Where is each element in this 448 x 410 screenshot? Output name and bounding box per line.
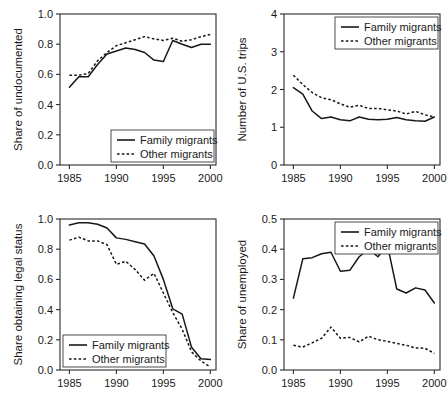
y-tick-label: 0.4	[262, 243, 277, 255]
x-tick-label: 2000	[422, 377, 446, 389]
x-tick-label: 1990	[328, 172, 352, 184]
panel-share-obtaining-legal-status: 0.00.20.40.60.81.01985199019952000Share …	[0, 205, 224, 410]
x-tick-label: 1985	[281, 377, 305, 389]
x-tick-label: 1995	[375, 172, 399, 184]
y-tick-label: 0.0	[262, 364, 277, 376]
legend: Family migrantsOther migrants	[335, 222, 442, 254]
y-tick-label: 0.2	[38, 129, 53, 141]
x-tick-label: 2000	[198, 377, 222, 389]
y-axis-title: Share of undocumented	[12, 28, 24, 151]
y-tick-label: 0.8	[38, 243, 53, 255]
y-tick-label: 0.6	[38, 273, 53, 285]
legend-label-other-migrants: Other migrants	[364, 35, 437, 47]
legend-label-family-migrants: Family migrants	[140, 134, 218, 146]
y-tick-label: 0.0	[38, 159, 53, 171]
y-tick-label: 0.2	[262, 304, 277, 316]
x-tick-label: 2000	[422, 172, 446, 184]
y-tick-label: 4	[271, 8, 277, 20]
y-tick-label: 0.4	[38, 99, 53, 111]
y-tick-label: 0.1	[262, 334, 277, 346]
x-tick-label: 1985	[281, 172, 305, 184]
y-tick-label: 3	[271, 46, 277, 58]
x-tick-label: 1995	[151, 377, 175, 389]
legend-label-other-migrants: Other migrants	[140, 148, 213, 160]
series-line-1	[69, 40, 210, 87]
legend-label-family-migrants: Family migrants	[364, 226, 442, 238]
y-tick-label: 0.0	[38, 364, 53, 376]
x-tick-label: 1990	[328, 377, 352, 389]
x-tick-label: 2000	[198, 172, 222, 184]
y-tick-label: 0.2	[38, 334, 53, 346]
figure-multi-panel-line-charts: 0.00.20.40.60.81.01985199019952000Share …	[0, 0, 448, 410]
panel-1-svg: 0.00.20.40.60.81.01985199019952000Share …	[0, 0, 224, 205]
legend: Family migrantsOther migrants	[335, 17, 442, 49]
y-tick-label: 0	[271, 159, 277, 171]
y-tick-label: 0.3	[262, 273, 277, 285]
panel-share-of-undocumented: 0.00.20.40.60.81.01985199019952000Share …	[0, 0, 224, 205]
series-line-2	[69, 34, 210, 75]
y-tick-label: 1.0	[38, 213, 53, 225]
x-tick-label: 1985	[57, 377, 81, 389]
y-tick-label: 0.8	[38, 38, 53, 50]
legend-label-other-migrants: Other migrants	[92, 353, 165, 365]
y-tick-label: 0.6	[38, 68, 53, 80]
panel-3-svg: 0.00.20.40.60.81.01985199019952000Share …	[0, 205, 224, 410]
series-line-1	[293, 88, 434, 122]
y-axis-title: Number of U.S. trips	[236, 37, 248, 141]
y-tick-label: 1.0	[38, 8, 53, 20]
legend-label-family-migrants: Family migrants	[92, 339, 170, 351]
x-tick-label: 1995	[375, 377, 399, 389]
x-tick-label: 1990	[104, 172, 128, 184]
legend-label-family-migrants: Family migrants	[364, 21, 442, 33]
panel-4-svg: 0.00.10.20.30.40.51985199019952000Share …	[224, 205, 448, 410]
legend-label-other-migrants: Other migrants	[364, 240, 437, 252]
y-tick-label: 0.4	[38, 304, 53, 316]
y-tick-label: 0.5	[262, 213, 277, 225]
x-tick-label: 1990	[104, 377, 128, 389]
y-axis-title: Share obtaining legal status	[12, 223, 24, 365]
y-tick-label: 1	[271, 121, 277, 133]
series-line-2	[293, 327, 434, 353]
y-tick-label: 2	[271, 84, 277, 96]
y-axis-title: Share of unemployed	[236, 240, 248, 349]
series-line-2	[293, 75, 434, 117]
legend: Family migrantsOther migrants	[111, 130, 218, 162]
panel-share-of-unemployed: 0.00.10.20.30.40.51985199019952000Share …	[224, 205, 448, 410]
panel-2-svg: 012341985199019952000Number of U.S. trip…	[224, 0, 448, 205]
panel-number-of-us-trips: 012341985199019952000Number of U.S. trip…	[224, 0, 448, 205]
legend: Family migrantsOther migrants	[63, 335, 170, 367]
x-tick-label: 1985	[57, 172, 81, 184]
x-tick-label: 1995	[151, 172, 175, 184]
